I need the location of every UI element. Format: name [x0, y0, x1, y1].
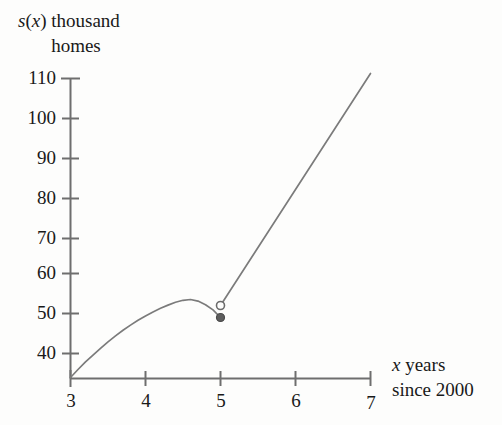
x-tick-label-6: 6	[285, 390, 307, 412]
chart-figure: s(x) thousand homes x years since 2000	[0, 0, 502, 425]
plot-canvas	[0, 0, 502, 425]
y-tick-label-50: 50	[14, 302, 56, 324]
x-tick-label-3: 3	[60, 390, 82, 412]
y-tick-label-80: 80	[14, 187, 56, 209]
y-tick-label-60: 60	[14, 262, 56, 284]
y-tick-label-110: 110	[14, 67, 56, 89]
y-tick-label-40: 40	[14, 342, 56, 364]
closed-dot-marker	[217, 314, 225, 322]
x-tick-label-7: 7	[360, 392, 382, 414]
linear-branch-line	[221, 74, 371, 306]
x-tick-label-4: 4	[135, 390, 157, 412]
x-tick-label-5: 5	[210, 390, 232, 412]
open-circle-marker	[217, 302, 225, 310]
y-tick-label-100: 100	[14, 107, 56, 129]
y-tick-label-70: 70	[14, 227, 56, 249]
y-tick-label-90: 90	[14, 147, 56, 169]
parabolic-branch-curve	[71, 300, 221, 378]
